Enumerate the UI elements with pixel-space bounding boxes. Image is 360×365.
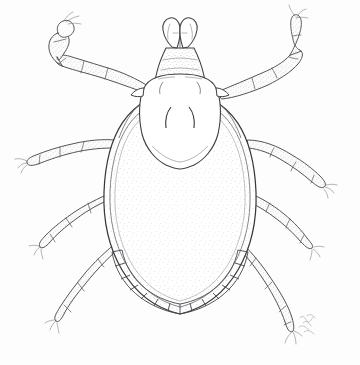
illustration-canvas: Black and white stippled line drawing of… <box>0 0 360 365</box>
tick-illustration <box>0 0 360 365</box>
